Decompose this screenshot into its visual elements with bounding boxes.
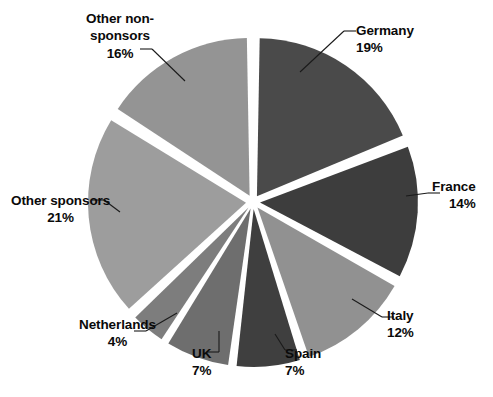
pie-label-name: Netherlands — [79, 316, 156, 333]
pie-label-value: 12% — [387, 324, 414, 341]
pie-label-value: 21% — [11, 209, 110, 226]
pie-label-uk: UK7% — [192, 345, 211, 380]
pie-label-name: Spain — [285, 345, 321, 362]
pie-label-name: Other sponsors — [11, 192, 110, 209]
pie-label-value: 4% — [79, 333, 156, 350]
pie-label-name: Germany — [356, 22, 414, 39]
pie-label-netherlands: Netherlands4% — [79, 316, 156, 351]
pie-label-value: 19% — [356, 39, 414, 56]
pie-label-france: France14% — [432, 178, 476, 213]
pie-label-italy: Italy12% — [387, 307, 414, 342]
pie-label-value: 7% — [285, 362, 321, 379]
pie-label-other-sponsors: Other sponsors21% — [11, 192, 110, 227]
pie-chart-figure: Germany19%France14%Italy12%Spain7%UK7%Ne… — [0, 0, 493, 397]
pie-label-name: France — [432, 178, 476, 195]
pie-label-value: 16% — [86, 45, 154, 62]
pie-label-name: Other non- sponsors — [86, 10, 154, 45]
pie-label-germany: Germany19% — [356, 22, 414, 57]
pie-label-name: UK — [192, 345, 211, 362]
pie-label-value: 14% — [432, 195, 476, 212]
pie-label-name: Italy — [387, 307, 414, 324]
pie-label-other-non-sponsors: Other non- sponsors16% — [86, 10, 154, 62]
pie-label-value: 7% — [192, 362, 211, 379]
pie-label-spain: Spain7% — [285, 345, 321, 380]
